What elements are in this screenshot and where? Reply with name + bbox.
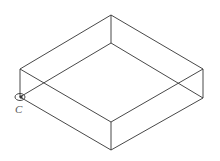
edge — [111, 69, 203, 122]
edge — [111, 98, 203, 150]
edge — [20, 15, 111, 69]
point-c-label: C — [15, 103, 22, 115]
box-diagram — [0, 0, 220, 161]
edge — [20, 43, 111, 97]
point-c-dot — [20, 96, 22, 98]
edge — [111, 15, 203, 69]
edge — [111, 43, 203, 98]
edge — [20, 97, 111, 150]
edge — [20, 69, 111, 122]
